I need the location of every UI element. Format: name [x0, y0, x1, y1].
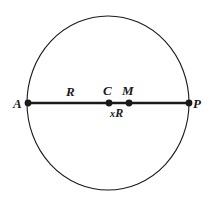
point-label-M: M [122, 84, 134, 97]
point-label-P: P [193, 97, 201, 110]
point-dot-P [186, 100, 193, 107]
point-dot-M [126, 100, 133, 107]
diagram-canvas: A R C M P xR [0, 0, 221, 203]
circle-diagram-svg [0, 0, 221, 203]
point-label-C: C [103, 84, 112, 97]
segment-label-xR: xR [110, 107, 123, 119]
point-label-A: A [13, 97, 22, 110]
point-dot-C [106, 100, 113, 107]
segment-label-xR-radius: R [115, 106, 123, 120]
point-dot-A [25, 100, 32, 107]
segment-label-R: R [66, 85, 75, 98]
